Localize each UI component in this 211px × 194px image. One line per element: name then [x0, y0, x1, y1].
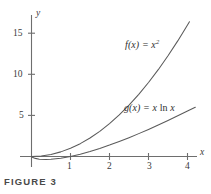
x-tick-label-2: 2 [107, 162, 112, 172]
y-tick-label-5: 5 [19, 111, 24, 121]
y-axis-label: y [36, 9, 40, 19]
curve-label-f: f(x) = x2 [125, 40, 159, 50]
curve-label-g-suffix: x [168, 102, 175, 113]
x-axis-label: x [200, 148, 204, 158]
y-tick-label-10: 10 [13, 70, 23, 80]
curve-f-x-squared [32, 22, 190, 157]
figure-container: 15 10 5 1 2 3 4 y x f(x) = x2 g(x) = x l… [0, 0, 211, 194]
x-tick-label-4: 4 [185, 162, 190, 172]
x-tick-label-1: 1 [67, 162, 72, 172]
curve-label-g-ln: ln [160, 102, 168, 113]
y-tick-label-15: 15 [13, 29, 23, 39]
figure-caption: FIGURE 3 [4, 176, 57, 187]
curve-g-x-ln-x [32, 107, 195, 159]
plot-canvas [0, 0, 211, 194]
curve-label-f-text: f(x) = x [125, 39, 156, 50]
curve-label-g-prefix: g(x) = x [124, 102, 160, 113]
x-tick-label-3: 3 [147, 162, 152, 172]
curve-label-g: g(x) = x ln x [124, 103, 175, 113]
curve-label-f-exponent: 2 [156, 38, 159, 45]
